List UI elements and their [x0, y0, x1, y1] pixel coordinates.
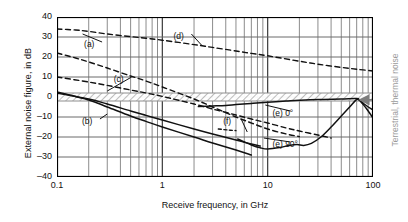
y-tick-3: 10: [12, 72, 52, 81]
chart-figure: External noise figure, in dB Terrestrial…: [0, 0, 408, 222]
curve-5: [238, 99, 373, 149]
curve-7: [218, 129, 236, 131]
curve-label-5: (e) 90°: [272, 139, 298, 149]
y-tick-1: 30: [12, 32, 52, 41]
y-tick-7: –30: [12, 152, 52, 161]
x-tick-3: 100: [353, 181, 393, 190]
y-tick-6: –20: [12, 132, 52, 141]
curve-label-3: (d): [173, 31, 183, 41]
x-tick-1: 1: [142, 181, 182, 190]
y-tick-0: 40: [12, 12, 52, 21]
curve-label-0: (a): [84, 39, 94, 49]
curve-label-2: (c): [114, 74, 124, 84]
x-axis-label: Receive frequency, in GHz: [57, 200, 373, 210]
x-tick-2: 10: [248, 181, 288, 190]
right-annotation-label: Terrestrial, thermal noise: [390, 25, 400, 175]
curve-label-6: (f): [223, 116, 231, 126]
y-tick-5: –10: [12, 112, 52, 121]
data-curves: [57, 29, 373, 155]
chart-canvas: [57, 17, 373, 177]
y-tick-2: 20: [12, 52, 52, 61]
x-tick-0: 0.1: [37, 181, 77, 190]
curve-label-1: (b): [82, 116, 92, 126]
y-tick-8: –40: [12, 172, 52, 181]
curve-0: [57, 29, 373, 71]
y-tick-4: 0: [12, 92, 52, 101]
plot-area: [57, 17, 373, 177]
curve-label-4: (e) 0°: [272, 108, 293, 118]
